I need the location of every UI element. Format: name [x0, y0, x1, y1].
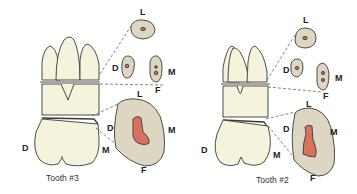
- tooth-3-cervical-mesial-label: M: [168, 126, 176, 135]
- tooth-3-cervical-lingual-label: L: [137, 90, 143, 99]
- tooth-3-mesiobuccal-root: [80, 44, 99, 80]
- tooth-3-cervical-distal-label: D: [107, 124, 114, 133]
- tooth-3-palatal-root: [56, 37, 80, 80]
- tooth-2-cervical-distal-label: D: [283, 125, 290, 134]
- tooth-2-root-trunk: [223, 86, 268, 117]
- tooth-3-crown: [35, 119, 99, 166]
- tooth-2-cross-sections: [291, 28, 335, 176]
- tooth-2-palatal-root: [228, 48, 250, 82]
- tooth-2-buccal-mesial-label: M: [335, 74, 343, 83]
- tooth-2-crown-distal-label: D: [201, 146, 208, 155]
- tooth-2-section-mesiobuccal-root: [317, 63, 329, 90]
- tooth-2-buccal-facial-label: F: [323, 92, 329, 101]
- tooth-2-caption: Tooth #2: [256, 176, 289, 185]
- tooth-2-buccal-distal-label: D: [283, 66, 290, 75]
- tooth-2-crown: [215, 120, 270, 166]
- tooth-3-buccal-mesial-label: M: [168, 68, 176, 77]
- tooth-2-palatal-label: L: [303, 16, 309, 25]
- tooth-2-mesiobuccal-root: [247, 46, 267, 82]
- tooth-2-cervical-mesial-label: M: [330, 128, 338, 137]
- tooth-3-crown-mesial-label: M: [102, 146, 110, 155]
- tooth-2-cervical-lingual-label: L: [306, 100, 312, 109]
- tooth-3-buccal-distal-label: D: [112, 64, 119, 73]
- tooth-2-cervical-facial-label: F: [310, 174, 316, 183]
- tooth-3-drawing: [35, 37, 100, 166]
- tooth-3-section-mesiobuccal-root: [150, 56, 162, 82]
- tooth-3-palatal-label: L: [140, 8, 146, 17]
- tooth-2-drawing: [215, 46, 270, 166]
- tooth-3-buccal-facial-label: F: [155, 86, 161, 95]
- tooth-2-crown-mesial-label: M: [273, 151, 281, 160]
- tooth-3-cervical-facial-label: F: [141, 166, 147, 175]
- tooth-3-caption: Tooth #3: [46, 174, 79, 183]
- tooth-3-crown-distal-label: D: [22, 144, 29, 153]
- tooth-diagram: [0, 0, 357, 194]
